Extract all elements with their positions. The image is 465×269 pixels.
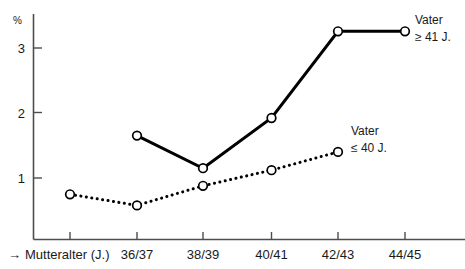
x-axis-arrow: → — [8, 247, 21, 262]
data-point-marker — [267, 166, 276, 175]
x-tick-label-5: 44/45 — [389, 247, 422, 262]
x-axis-title: Mutteralter (J.) — [25, 247, 110, 262]
series-label-lower-line2: ≤ 40 J. — [351, 141, 387, 155]
chart-container: % 3 2 1 → Mutteralter (J.) 36/37 38/39 4… — [0, 0, 465, 269]
series-label-upper-line2: ≥ 41 J. — [415, 30, 451, 44]
data-point-marker — [401, 27, 410, 36]
data-point-marker — [133, 201, 142, 210]
x-tick-label-1: 36/37 — [121, 247, 154, 262]
data-point-marker — [334, 27, 343, 36]
data-point-marker — [199, 164, 208, 173]
y-tick-label-3: 3 — [18, 41, 25, 56]
data-point-marker — [133, 131, 142, 140]
series-path-vater-40 — [70, 152, 338, 205]
y-tick-label-1: 1 — [18, 171, 25, 186]
x-tick-label-4: 42/43 — [322, 247, 355, 262]
x-tick-label-2: 38/39 — [187, 247, 220, 262]
line-chart-plot: % 3 2 1 → Mutteralter (J.) 36/37 38/39 4… — [0, 0, 465, 269]
data-point-marker — [334, 148, 343, 157]
y-tick-label-2: 2 — [18, 106, 25, 121]
x-tick-label-3: 40/41 — [255, 247, 288, 262]
data-point-marker — [199, 182, 208, 191]
data-point-marker — [267, 114, 276, 123]
series-label-lower-line1: Vater — [351, 124, 379, 138]
y-axis-unit-label: % — [13, 15, 22, 26]
data-point-marker — [66, 190, 75, 199]
series-label-upper-line1: Vater — [415, 13, 443, 27]
